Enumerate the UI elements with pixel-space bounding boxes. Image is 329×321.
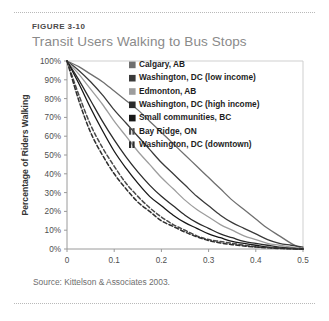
figure-number: FIGURE 3-10: [32, 22, 85, 31]
y-tick-label: 10%: [45, 226, 61, 235]
legend-label: Calgary, AB: [139, 59, 185, 69]
legend-swatch: [132, 141, 134, 148]
y-tick-label: 70%: [45, 113, 61, 122]
transit-walking-distance-chart: 0%10%20%30%40%50%60%70%80%90%100% 00.10.…: [14, 53, 315, 268]
x-tick-label: 0: [65, 256, 70, 265]
figure-title: Transit Users Walking to Bus Stops: [32, 34, 247, 49]
y-tick-label: 40%: [45, 170, 61, 179]
y-axis-title: Percentage of Riders Walking: [20, 95, 30, 216]
y-tick-label: 90%: [45, 76, 61, 85]
legend-label: Small communities, BC: [139, 112, 231, 122]
legend-label: Edmonton, AB: [139, 86, 196, 96]
y-tick-label: 50%: [45, 151, 61, 160]
chart-legend: Calgary, ABWashington, DC (low income)Ed…: [129, 59, 260, 149]
legend-swatch: [129, 141, 131, 148]
x-tick-label: 0.3: [203, 256, 215, 265]
legend-swatch: [129, 75, 136, 82]
y-tick-label: 0%: [49, 245, 61, 254]
y-tick-label: 20%: [45, 207, 61, 216]
legend-label: Washington, DC (high income): [139, 99, 260, 109]
x-tick-label: 0.4: [250, 256, 262, 265]
legend-label: Bay Ridge, ON: [139, 126, 197, 136]
x-axis: 00.10.20.30.40.5: [65, 249, 309, 265]
x-tick-label: 0.5: [297, 256, 309, 265]
y-axis: 0%10%20%30%40%50%60%70%80%90%100%: [40, 57, 67, 254]
legend-swatch: [129, 102, 136, 109]
legend-swatch: [129, 115, 136, 122]
chart-plot-area: 0%10%20%30%40%50%60%70%80%90%100% 00.10.…: [14, 53, 315, 268]
y-tick-label: 60%: [45, 132, 61, 141]
legend-swatch: [129, 88, 136, 95]
legend-swatch: [132, 128, 134, 135]
y-tick-label: 100%: [40, 57, 61, 66]
legend-swatch: [129, 62, 136, 69]
legend-label: Washington, DC (downtown): [139, 139, 252, 149]
source-note: Source: Kittelson & Associates 2003.: [33, 277, 170, 287]
figure-card: FIGURE 3-10 Transit Users Walking to Bus…: [14, 12, 315, 304]
legend-label: Washington, DC (low income): [139, 72, 256, 82]
x-tick-label: 0.1: [109, 256, 121, 265]
legend-swatch: [129, 128, 131, 135]
y-tick-label: 80%: [45, 95, 61, 104]
x-tick-label: 0.2: [156, 256, 168, 265]
y-tick-label: 30%: [45, 189, 61, 198]
